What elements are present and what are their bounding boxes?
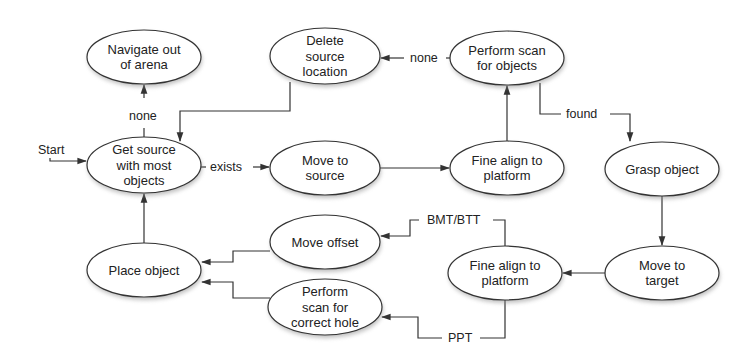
start-label: Start bbox=[38, 143, 65, 157]
node-label: with most bbox=[116, 158, 172, 173]
node-label: source bbox=[305, 168, 344, 183]
node-label: Move to bbox=[302, 153, 348, 168]
node-fine-align-1: Fine align toplatform bbox=[450, 141, 565, 198]
node-label: Delete bbox=[306, 33, 344, 48]
edge-fine-align-2-to-ppt-label bbox=[480, 300, 505, 338]
edge-ppt-label-to-scan-hole bbox=[382, 317, 442, 338]
node-move-target: Move totarget bbox=[605, 246, 720, 303]
node-label: target bbox=[645, 273, 679, 288]
node-label: Perform scan bbox=[468, 43, 545, 58]
bmt-btt-label: BMT/BTT bbox=[427, 213, 481, 227]
node-get-source: Get sourcewith mostobjects bbox=[87, 137, 202, 196]
edge-start-to-get-source bbox=[50, 158, 86, 161]
found-label: found bbox=[566, 107, 597, 121]
state-diagram: Start none exists none found BMT/BTT PPT… bbox=[0, 0, 755, 362]
none-label-navigate: none bbox=[129, 109, 157, 123]
node-label: Navigate out bbox=[108, 42, 181, 57]
node-label: Get source bbox=[112, 142, 176, 157]
node-label: objects bbox=[123, 173, 165, 188]
node-label: Grasp object bbox=[625, 162, 699, 177]
node-fine-align-2: Fine align toplatform bbox=[448, 246, 563, 303]
node-move-offset: Move offset bbox=[270, 215, 381, 272]
edge-fine-align-2-to-bmt-label bbox=[493, 220, 505, 246]
node-label: location bbox=[303, 64, 348, 79]
node-label: of arena bbox=[120, 57, 168, 72]
ppt-label: PPT bbox=[448, 331, 473, 345]
nodes: Navigate outof arenaGet sourcewith mosto… bbox=[87, 28, 720, 338]
node-label: platform bbox=[484, 168, 531, 183]
node-label: correct hole bbox=[291, 315, 359, 330]
node-label: Move to bbox=[639, 258, 685, 273]
node-delete-source: Deletesourcelocation bbox=[270, 28, 381, 87]
node-label: Fine align to bbox=[470, 258, 541, 273]
node-label: Fine align to bbox=[472, 153, 543, 168]
node-navigate: Navigate outof arena bbox=[87, 30, 202, 87]
edge-bmt-label-to-move-offset bbox=[381, 220, 419, 236]
edge-found-to-grasp bbox=[610, 114, 630, 141]
node-grasp: Grasp object bbox=[605, 142, 720, 199]
exists-label: exists bbox=[210, 160, 242, 174]
edge-scan-hole-to-place bbox=[202, 282, 270, 298]
node-label: Perform bbox=[302, 284, 348, 299]
edge-move-offset-to-place bbox=[202, 251, 270, 262]
node-move-source: Move tosource bbox=[270, 141, 381, 198]
none-label-scan: none bbox=[410, 51, 438, 65]
node-label: source bbox=[305, 49, 344, 64]
node-label: for objects bbox=[477, 58, 537, 73]
node-place: Place object bbox=[87, 243, 202, 300]
node-scan-objects: Perform scanfor objects bbox=[450, 31, 565, 88]
node-scan-hole: Performscan forcorrect hole bbox=[268, 279, 383, 338]
node-label: platform bbox=[482, 273, 529, 288]
node-label: scan for bbox=[302, 300, 349, 315]
node-label: Place object bbox=[109, 263, 180, 278]
node-label: Move offset bbox=[292, 235, 359, 250]
edge-delete-source-to-get-source bbox=[180, 82, 290, 141]
edge-scan-objects-to-found-label bbox=[540, 83, 561, 114]
